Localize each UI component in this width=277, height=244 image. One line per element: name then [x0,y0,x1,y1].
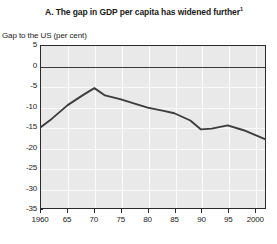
x-axis-tick-label: 70 [90,215,99,224]
x-axis-tick-label: 85 [170,215,179,224]
y-axis-tick-label: -10 [3,103,37,111]
x-axis-tick-label: 80 [143,215,152,224]
y-axis-tick-label: -30 [3,185,37,193]
y-axis-tick-label: 5 [3,41,37,49]
chart-title-footnote-marker: 1 [240,6,243,12]
x-axis-tick-mark [67,209,68,213]
series-line-gap-to-us [41,46,265,208]
y-axis-tick-label: -35 [3,205,37,213]
x-axis-tick-mark [201,209,202,213]
x-axis-tick-label: 65 [63,215,72,224]
x-axis-tick-mark [228,209,229,213]
chart-title: A. The gap in GDP per capita has widened… [38,4,250,17]
y-axis-tick-label: -15 [3,123,37,131]
x-axis-tick-label: 1960 [32,215,49,224]
plot-area [40,45,266,209]
y-axis-tick-label: -5 [3,82,37,90]
x-axis-tick-mark [148,209,149,213]
x-axis-tick-mark [175,209,176,213]
y-axis-tick-label: 0 [3,62,37,70]
x-axis-tick-mark [40,209,41,213]
x-axis-tick-label: 75 [116,215,125,224]
y-axis-tick-labels: 50-5-10-15-20-25-30-35 [0,0,37,244]
x-axis-tick-label: 2000 [247,215,264,224]
x-axis-tick-mark [255,209,256,213]
chart-title-text: A. The gap in GDP per capita has widened… [45,7,240,17]
x-axis-tick-mark [121,209,122,213]
x-axis-tick-label: 90 [197,215,206,224]
x-axis-tick-label: 95 [224,215,233,224]
x-axis-tick-mark [94,209,95,213]
chart-container: A. The gap in GDP per capita has widened… [0,0,277,244]
y-axis-tick-label: -25 [3,164,37,172]
y-axis-tick-label: -20 [3,144,37,152]
